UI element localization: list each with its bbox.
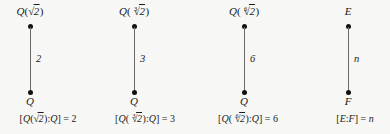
top-field-label: Q(√2) — [17, 5, 44, 19]
edge-degree-label: 3 — [140, 53, 145, 65]
top-field-label: E — [345, 5, 352, 17]
top-field-label: Q(3√2) — [119, 5, 149, 19]
bottom-field-label: Q — [240, 95, 248, 107]
radical-sixthroot2: 6√2 — [241, 5, 256, 19]
extension-edge — [30, 27, 31, 93]
diagram-caption: [Q(√2):Q] = 2 — [20, 113, 77, 126]
extension-edge — [134, 27, 135, 93]
bottom-field-label: Q — [26, 95, 34, 107]
edge-degree-label: 6 — [250, 53, 255, 65]
radical-sqrt2: √2 — [28, 5, 40, 19]
edge-degree-label: n — [354, 53, 359, 65]
extension-edge — [348, 27, 349, 93]
extension-edge — [244, 27, 245, 93]
radical-cbrt2: 3√2 — [131, 5, 146, 19]
diagram-caption: [Q(3√2):Q] = 3 — [115, 113, 175, 126]
lattice-diagram-cbrt2: Q(3√2) 3 Q [Q(3√2):Q] = 3 — [96, 0, 196, 134]
top-field-label: Q(6√2) — [229, 5, 259, 19]
edge-degree-label: 2 — [36, 53, 41, 65]
bottom-field-label: F — [345, 95, 352, 107]
lattice-diagram-sixthroot2: Q(6√2) 6 Q [Q(6√2):Q] = 6 — [196, 0, 300, 134]
diagram-caption: [E:F] = n — [336, 113, 373, 125]
diagram-caption: [Q(6√2):Q] = 6 — [218, 113, 278, 126]
lattice-diagram-sqrt2: Q(√2) 2 Q [Q(√2):Q] = 2 — [0, 0, 96, 134]
field-extension-figure-row: Q(√2) 2 Q [Q(√2):Q] = 2 Q(3√2) 3 Q [Q(3√… — [0, 0, 390, 134]
bottom-field-label: Q — [130, 95, 138, 107]
lattice-diagram-generic: E n F [E:F] = n — [300, 0, 390, 134]
